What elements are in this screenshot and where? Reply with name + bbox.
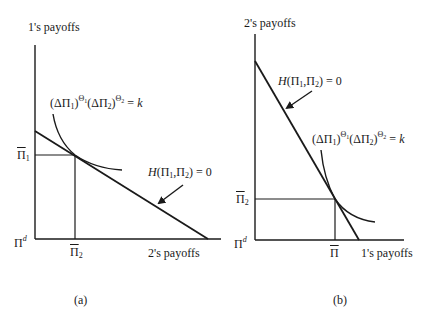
panel-b-frontier-equation: H(Π1,Π2) = 0 (278, 75, 342, 89)
panel-a-x-axis-label: 2's payoffs (148, 247, 200, 259)
panel-b-x-axis-label: 1's payoffs (361, 247, 413, 259)
panel-b-arrow (287, 91, 312, 108)
panel-b-pi2-bar-label: Π2 (236, 193, 249, 207)
panel-b-pi-bar-label: Π (330, 247, 339, 259)
panel-a-curve-equation: (ΔΠ1)Θ1(ΔΠ2)Θ2 = k (50, 95, 142, 111)
panel-a-indifference-curve (53, 114, 122, 170)
panel-a-pi1-bar-label: Π1 (17, 149, 30, 163)
panel-b-indifference-curve (321, 150, 375, 222)
panel-b-curve-equation: (ΔΠ1)Θ1(ΔΠ2)Θ2 = k (312, 131, 404, 147)
panel-a-origin-label: Πd (14, 235, 27, 249)
panel-a-pi2-bar-label: Π2 (70, 246, 83, 260)
panel-b-y-axis-label: 2's payoffs (244, 17, 296, 29)
panel-b-origin-label: Πd (234, 236, 247, 250)
panel-a-frontier-equation: H(Π1,Π2) = 0 (148, 166, 212, 180)
panel-a-caption: (a) (74, 294, 87, 306)
panel-b-caption: (b) (333, 294, 347, 306)
panel-a-y-axis-label: 1's payoffs (28, 21, 80, 33)
diagram-canvas (0, 0, 442, 318)
panel-a-arrow (159, 185, 183, 203)
